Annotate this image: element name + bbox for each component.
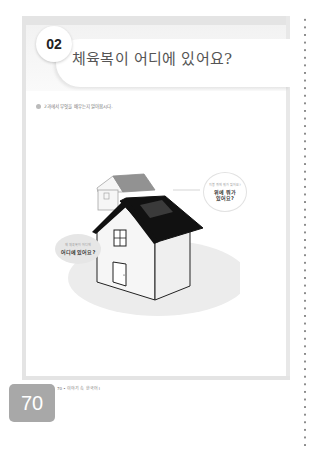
lesson-number-badge: 02: [36, 26, 72, 62]
footer-text: 70 • 이야기 속 한국어 I: [57, 385, 100, 391]
dotted-binding-edge: [303, 16, 307, 446]
speech-bubble-top: 지붕 위에 뭐가 있어요? 위에 뭐가 있어요?: [203, 172, 247, 212]
bullet-icon: [36, 104, 41, 109]
bubble-top-line2: 있어요?: [216, 195, 234, 201]
frame-top-border: [22, 16, 290, 25]
page-number-tab: 70: [9, 384, 55, 422]
instruction: 2과에서 무엇을 배우는지 알아봅시다.: [36, 103, 113, 109]
bubble-left-main: 어디에 있어요?: [61, 249, 96, 255]
window-icon: [114, 230, 126, 246]
door-icon: [113, 262, 126, 286]
frame-bottom-border: [22, 376, 290, 380]
bubble-top-caption: 지붕 위에 뭐가 있어요?: [209, 183, 240, 187]
instruction-text: 2과에서 무엇을 배우는지 알아봅시다.: [44, 103, 113, 109]
bubble-left-caption: 제 체육복이 어디에: [65, 243, 91, 247]
lesson-title: 체육복이 어디에 있어요?: [72, 47, 232, 68]
speech-bubble-left: 제 체육복이 어디에 어디에 있어요?: [55, 234, 101, 264]
